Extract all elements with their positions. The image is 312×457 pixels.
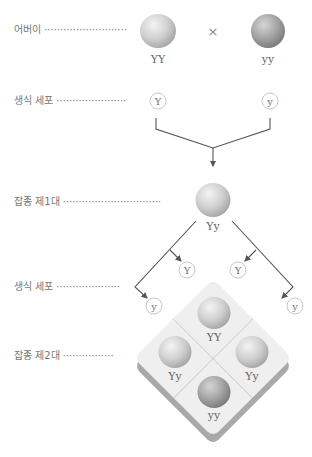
right-branch-line xyxy=(232,221,293,298)
genotype-f2-bottom: yy xyxy=(208,409,220,422)
pea-parent-yy-dominant xyxy=(140,14,176,48)
gamete-parent-left: Y xyxy=(150,93,167,110)
arrow-inner-right xyxy=(245,250,256,261)
pea-f2-bottom xyxy=(198,376,231,408)
gamete-f1-inner-left: Y xyxy=(179,262,196,279)
pea-f2-top xyxy=(198,297,231,329)
left-branch-line xyxy=(135,221,196,298)
pea-f2-left xyxy=(159,336,192,368)
pea-f1 xyxy=(196,183,231,217)
genotype-f2-top: YY xyxy=(207,331,222,344)
gamete-f1-outer-left: y xyxy=(146,298,163,315)
genotype-parent-right: yy xyxy=(262,53,274,66)
cross-symbol: × xyxy=(208,24,219,39)
gamete-f1-outer-right: y xyxy=(287,298,304,315)
pea-parent-yy-recessive xyxy=(251,14,285,48)
arrow-inner-left xyxy=(170,250,181,261)
gamete-f1-inner-right: Y xyxy=(230,262,247,279)
gamete-parent-right: y xyxy=(262,93,279,110)
bracket-line xyxy=(156,118,270,148)
genotype-f2-left: Yy xyxy=(168,370,181,383)
pea-f2-right xyxy=(236,336,269,368)
genotype-parent-left: YY xyxy=(151,53,166,66)
genotype-f1: Yy xyxy=(206,220,219,233)
genotype-f2-right: Yy xyxy=(245,370,258,383)
